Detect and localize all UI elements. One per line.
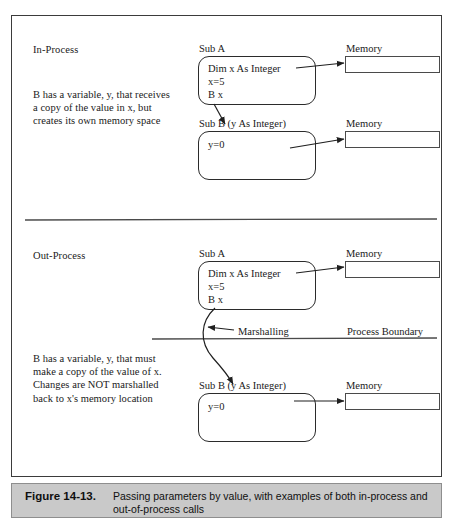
marshalling-label: Marshalling [238, 326, 289, 338]
figure-container: In-Process B has a variable, y, that rec… [0, 0, 457, 521]
process-boundary-label: Process Boundary [347, 326, 423, 338]
in-process-section-label: In-Process [33, 44, 78, 56]
code-line: Dim x As Integer [208, 268, 281, 280]
in-process-memory-b-label: Memory [346, 118, 382, 130]
in-process-sub-a-box: Dim x As Integer x=5 B x [198, 56, 316, 105]
in-process-sub-a-title: Sub A [199, 43, 225, 55]
code-line: y=0 [208, 401, 224, 413]
figure-caption-line-1: Passing parameters by value, with exampl… [113, 490, 433, 503]
code-line: Dim x As Integer [208, 63, 281, 75]
out-process-description: B has a variable, y, that must make a co… [33, 352, 173, 405]
figure-caption-line-2: out-of-process calls [113, 503, 433, 516]
out-process-memory-a-box [345, 261, 440, 278]
code-line: B x [208, 294, 223, 306]
out-process-memory-b-box [345, 393, 440, 410]
out-process-sub-a-title: Sub A [199, 248, 225, 260]
code-line: x=5 [208, 76, 224, 88]
figure-caption-text: Passing parameters by value, with exampl… [113, 490, 433, 516]
code-line: y=0 [208, 139, 224, 151]
in-process-sub-b-box: y=0 [198, 131, 316, 180]
in-process-description: B has a variable, y, that receives a cop… [33, 88, 173, 128]
out-process-sub-b-title: Sub B (y As Integer) [199, 380, 286, 392]
out-process-memory-a-label: Memory [346, 248, 382, 260]
figure-caption-bar: Figure 14-13. Passing parameters by valu… [11, 483, 442, 518]
in-process-memory-a-label: Memory [346, 43, 382, 55]
out-process-memory-b-label: Memory [346, 380, 382, 392]
in-process-memory-a-box [345, 56, 440, 73]
in-process-sub-b-title: Sub B (y As Integer) [199, 118, 286, 130]
figure-number: Figure 14-13. [25, 490, 96, 503]
out-process-section-label: Out-Process [33, 250, 85, 262]
in-process-memory-b-box [345, 131, 440, 148]
out-process-sub-b-box: y=0 [198, 393, 316, 442]
code-line: x=5 [208, 281, 224, 293]
code-line: B x [208, 89, 223, 101]
out-process-sub-a-box: Dim x As Integer x=5 B x [198, 261, 316, 310]
